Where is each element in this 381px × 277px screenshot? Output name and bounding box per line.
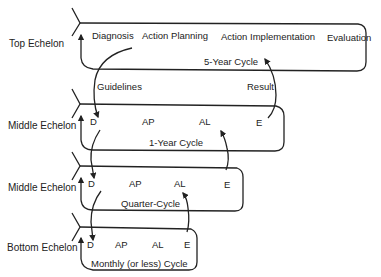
step-evaluation: Evaluation (327, 33, 371, 43)
step-ap: AP (115, 240, 128, 250)
step-action-planning: Action Planning (142, 31, 208, 41)
guidelines-arrow-3 (91, 191, 101, 240)
step-e: E (256, 118, 262, 128)
result-label: Result (247, 82, 274, 92)
cycle-label-middle-2: Quarter-Cycle (121, 199, 180, 209)
cycle-label-top: 5-Year Cycle (204, 57, 258, 67)
step-d: D (90, 117, 97, 127)
step-e: E (224, 180, 230, 190)
step-e: E (184, 240, 190, 250)
guidelines-arrow-2 (91, 130, 100, 178)
echelon-label-bottom: Bottom Echelon (7, 243, 78, 253)
step-ap: AP (129, 179, 142, 189)
step-al: AL (199, 117, 211, 127)
echelon-label-middle-1: Middle Echelon (8, 121, 76, 131)
step-action-implementation: Action Implementation (221, 32, 315, 42)
step-al: AL (174, 179, 186, 189)
step-diagnosis: Diagnosis (92, 31, 134, 41)
step-ap: AP (142, 117, 155, 127)
cycle-label-bottom: Monthly (or less) Cycle (91, 259, 188, 269)
cycle-label-middle-1: 1-Year Cycle (149, 138, 203, 148)
step-al: AL (152, 240, 164, 250)
step-d: D (88, 179, 95, 189)
echelon-label-top: Top Echelon (9, 39, 64, 49)
guidelines-label: Guidelines (97, 82, 142, 92)
step-d: D (87, 240, 94, 250)
result-arrow-3 (183, 193, 189, 232)
echelon-label-middle-2: Middle Echelon (8, 183, 76, 193)
